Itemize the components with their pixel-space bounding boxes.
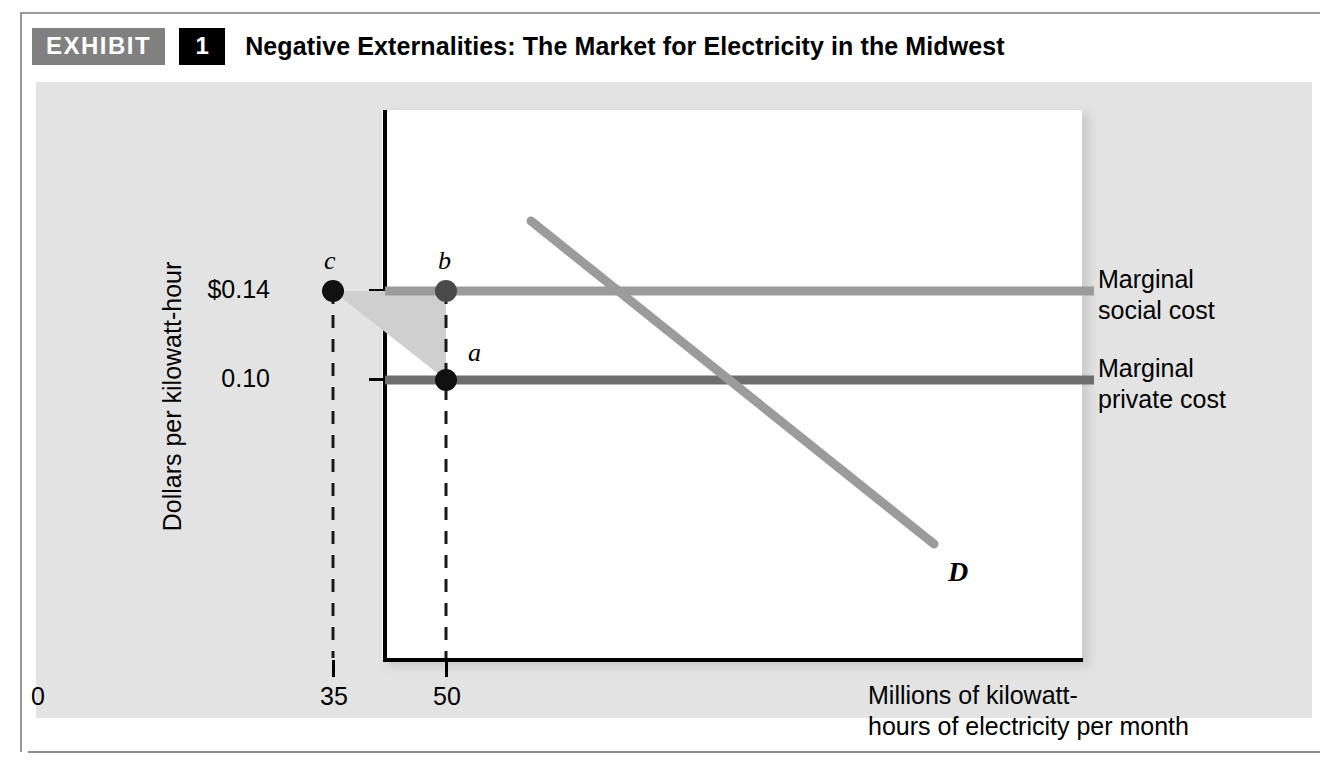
mpc-label-line2: private cost [1098,384,1226,415]
page-bottom-rule [28,751,1320,753]
point-a-marker [435,369,457,391]
point-label-a: a [468,338,481,368]
exhibit-badge: EXHIBIT [32,28,165,65]
msc-label-line1: Marginal [1098,264,1215,295]
mpc-label-line1: Marginal [1098,353,1226,384]
exhibit-panel: $0.14 0.10 0 35 50 Dollars per kilowatt-… [36,82,1312,718]
page-top-rule [20,12,1320,14]
marginal-private-cost-label: Marginal private cost [1098,353,1226,416]
point-label-c: c [324,246,336,276]
page-left-rule [20,12,22,752]
point-label-b: b [438,246,451,276]
point-b-marker [435,280,457,302]
demand-curve-label: D [948,556,968,588]
msc-label-line2: social cost [1098,295,1215,326]
marginal-social-cost-label: Marginal social cost [1098,264,1215,327]
point-c-marker [322,280,344,302]
exhibit-page: EXHIBIT 1 Negative Externalities: The Ma… [0,0,1330,764]
exhibit-header: EXHIBIT 1 Negative Externalities: The Ma… [32,26,1005,66]
exhibit-title: Negative Externalities: The Market for E… [245,32,1005,61]
exhibit-number-badge: 1 [179,28,225,65]
externalities-chart: $0.14 0.10 0 35 50 Dollars per kilowatt-… [36,82,1312,718]
deadweight-loss-triangle [333,291,446,380]
